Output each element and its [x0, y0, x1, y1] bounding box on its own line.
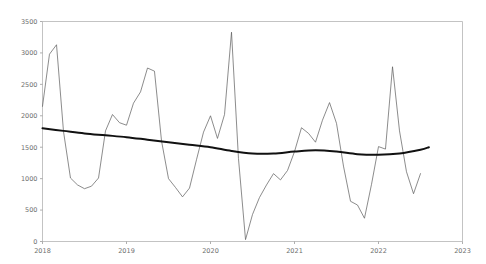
x-tick-label: 2021 — [286, 247, 303, 255]
y-tick-label: 3500 — [21, 18, 38, 26]
x-tick-label: 2023 — [454, 247, 471, 255]
y-tick-label: 0 — [33, 238, 37, 246]
y-tick-label: 2000 — [21, 112, 38, 120]
x-tick-label: 2020 — [202, 247, 219, 255]
y-tick-label: 1000 — [21, 175, 38, 183]
line-chart: 0500100015002000250030003500 20182019202… — [0, 0, 486, 264]
y-tick-label: 3000 — [21, 49, 38, 57]
y-tick-label: 1500 — [21, 144, 38, 152]
chart-container: 0500100015002000250030003500 20182019202… — [0, 0, 486, 264]
y-tick-label: 2500 — [21, 81, 38, 89]
x-tick-label: 2022 — [370, 247, 387, 255]
y-tick-label: 500 — [25, 206, 37, 214]
x-tick-label: 2018 — [34, 247, 51, 255]
x-tick-label: 2019 — [118, 247, 135, 255]
